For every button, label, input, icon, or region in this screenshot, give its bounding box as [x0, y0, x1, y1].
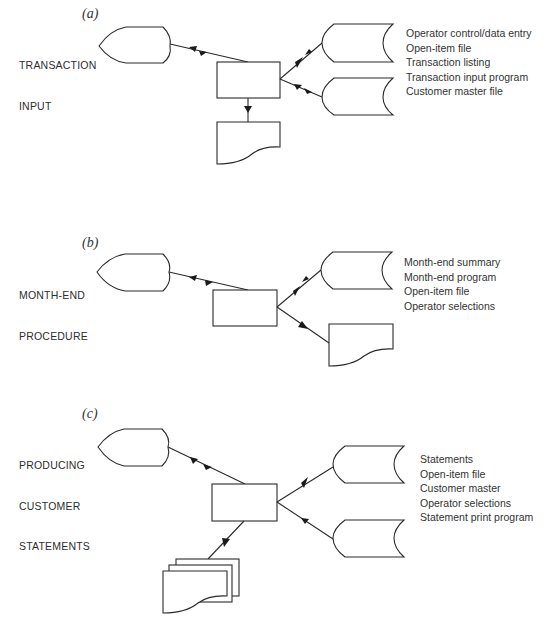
- arrowhead-icon: [304, 88, 312, 94]
- connector-display-process: [170, 44, 248, 62]
- multi-document-shape: [163, 559, 239, 613]
- section-title-b: MONTH-END PROCEDURE: [19, 262, 88, 357]
- legend-item: Customer master file: [406, 84, 531, 99]
- legend-item: Customer master: [420, 481, 533, 496]
- section-title-a: TRANSACTION INPUT: [19, 32, 96, 127]
- process-box: [212, 484, 277, 521]
- display-terminal-shape: [97, 254, 170, 291]
- connector-process-storage-1: [280, 43, 322, 79]
- legend-item: Statements: [420, 452, 533, 467]
- section-c-diagram: [98, 429, 404, 613]
- legend-item: Transaction listing: [406, 55, 531, 70]
- display-terminal-shape: [98, 429, 169, 466]
- legend-a: Operator control/data entry Open-item fi…: [406, 26, 531, 99]
- section-b-diagram: [97, 252, 393, 366]
- document-shape: [329, 324, 393, 366]
- online-storage-shape: [322, 24, 393, 62]
- legend-b: Month-end summary Month-end program Open…: [404, 255, 500, 313]
- online-storage-shape: [321, 252, 392, 289]
- legend-item: Month-end program: [404, 270, 500, 285]
- online-storage-shape: [322, 78, 393, 115]
- section-marker-b: (b): [82, 235, 98, 251]
- arrowhead-icon: [293, 286, 300, 296]
- connector-process-storage: [277, 270, 321, 307]
- legend-c: Statements Open-item file Customer maste…: [420, 452, 533, 525]
- display-terminal-shape: [99, 27, 170, 63]
- arrowhead-icon: [295, 57, 303, 68]
- legend-item: Month-end summary: [404, 255, 500, 270]
- online-storage-shape: [333, 446, 404, 483]
- legend-item: Operator selections: [420, 496, 533, 511]
- legend-item: Statement print program: [420, 510, 533, 525]
- section-marker-a: (a): [82, 6, 98, 22]
- document-shape: [217, 122, 280, 164]
- legend-item: Open-item file: [406, 41, 531, 56]
- process-box: [217, 62, 280, 98]
- section-a-diagram: [99, 24, 393, 164]
- legend-item: Transaction input program: [406, 70, 531, 85]
- arrowhead-icon: [189, 275, 197, 281]
- legend-item: Operator control/data entry: [406, 26, 531, 41]
- arrowhead-icon: [301, 518, 309, 524]
- arrowhead-icon: [244, 106, 252, 113]
- arrowhead-icon: [294, 84, 302, 90]
- section-title-c: PRODUCING CUSTOMER STATEMENTS: [19, 432, 90, 567]
- arrowhead-icon: [203, 464, 212, 470]
- online-storage-shape: [333, 520, 404, 557]
- arrowhead-icon: [222, 538, 230, 547]
- legend-item: Operator selections: [404, 299, 500, 314]
- section-marker-c: (c): [82, 406, 98, 422]
- process-box: [213, 290, 277, 326]
- legend-item: Open-item file: [404, 284, 500, 299]
- connector-process-storage-2: [280, 79, 322, 97]
- legend-item: Open-item file: [420, 467, 533, 482]
